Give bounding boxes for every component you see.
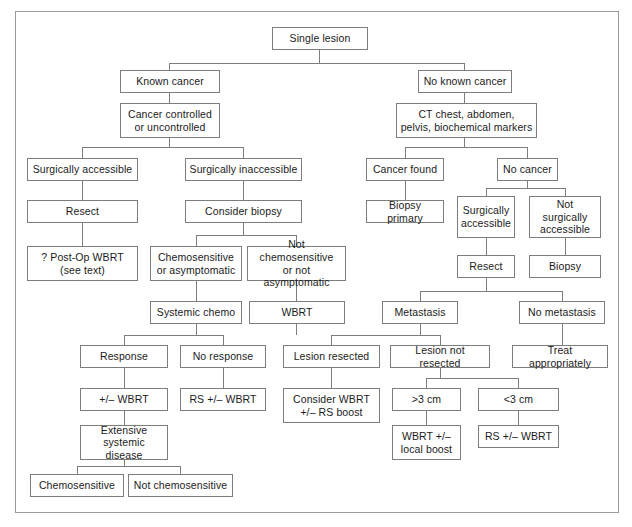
node-label: Cancer found [373, 163, 437, 176]
connector [296, 324, 297, 335]
node-surgically-accessible-right[interactable]: Surgicallyaccessible [457, 196, 515, 238]
node-label: WBRT +/–local boost [401, 430, 452, 455]
node-no-known-cancer[interactable]: No known cancer [418, 70, 512, 93]
connector [169, 63, 465, 64]
node-chemosensitive-or-asymptomatic[interactable]: Chemosensitiveor asymptomatic [150, 246, 242, 281]
node-label: Consider WBRT+/– RS boost [293, 393, 370, 418]
connector [486, 188, 565, 189]
node-label: Lesion not resected [394, 344, 486, 369]
node-consider-biopsy[interactable]: Consider biopsy [185, 200, 302, 223]
connector [243, 181, 244, 200]
node-label: Known cancer [136, 75, 204, 88]
node-resect-left[interactable]: Resect [27, 200, 138, 223]
node-known-cancer[interactable]: Known cancer [120, 70, 220, 93]
connector [405, 147, 527, 148]
node-not-chemosensitive-or-not-asymptomatic[interactable]: Not chemosensitiveor not asymptomatic [247, 246, 346, 281]
node-lesion-resected[interactable]: Lesion resected [283, 345, 380, 368]
connector [331, 335, 440, 336]
connector [527, 147, 528, 158]
connector [420, 324, 421, 335]
connector [464, 92, 465, 103]
connector [124, 335, 223, 336]
node-cancer-found[interactable]: Cancer found [366, 158, 444, 181]
connector [77, 466, 180, 467]
node-not-surgically-accessible[interactable]: Not surgicallyaccessible [529, 196, 601, 238]
node-label: No cancer [503, 163, 552, 176]
connector [124, 368, 125, 388]
node-label: Surgically inaccessible [190, 163, 298, 176]
node-no-metastasis[interactable]: No metastasis [519, 301, 605, 324]
node-wbrt-local-boost[interactable]: WBRT +/–local boost [392, 425, 461, 460]
node-label: Not surgicallyaccessible [533, 198, 597, 236]
connector [405, 181, 406, 200]
node-metastasis[interactable]: Metastasis [382, 301, 458, 324]
node-label: Resect [469, 260, 502, 273]
connector [562, 291, 563, 301]
node-single-lesion[interactable]: Single lesion [272, 27, 368, 50]
node-resect-right[interactable]: Resect [457, 255, 515, 278]
node-rs-plus-minus-wbrt-right[interactable]: RS +/– WBRT [478, 425, 559, 448]
node-plus-minus-wbrt[interactable]: +/– WBRT [80, 388, 168, 411]
node-cancer-controlled-or-uncontrolled[interactable]: Cancer controlledor uncontrolled [120, 103, 220, 138]
connector [180, 466, 181, 474]
node-treat-appropriately[interactable]: Treat appropriately [512, 345, 608, 368]
node-not-chemosensitive[interactable]: Not chemosensitive [128, 474, 233, 497]
connector [486, 188, 487, 196]
node-label: RS +/– WBRT [189, 393, 256, 406]
connector [223, 368, 224, 388]
node-surgically-inaccessible[interactable]: Surgically inaccessible [185, 158, 302, 181]
node-label: No response [193, 350, 254, 363]
connector [562, 324, 563, 345]
node-no-response[interactable]: No response [180, 345, 266, 368]
connector [464, 63, 465, 70]
connector [169, 92, 170, 103]
node-label: CT chest, abdomen,pelvis, biochemical ma… [401, 108, 533, 133]
node-label: Treat appropriately [516, 344, 604, 369]
node-lesion-not-resected[interactable]: Lesion not resected [390, 345, 490, 368]
node-no-cancer[interactable]: No cancer [497, 158, 558, 181]
connector [464, 137, 465, 147]
connector [196, 280, 197, 301]
node-consider-wbrt-rs-boost[interactable]: Consider WBRT+/– RS boost [283, 388, 380, 423]
node-response[interactable]: Response [80, 345, 168, 368]
node-label: Extensivesystemic disease [84, 424, 164, 462]
node-label: Chemosensitiveor asymptomatic [157, 251, 236, 276]
node-label: Not chemosensitiveor not asymptomatic [251, 238, 342, 288]
node-label: Surgicallyaccessible [461, 204, 511, 229]
node-surgically-accessible-left[interactable]: Surgically accessible [27, 158, 138, 181]
connector [331, 368, 332, 388]
node-label: No known cancer [424, 75, 507, 88]
connector [426, 378, 518, 379]
connector [486, 278, 487, 291]
connector [196, 235, 296, 236]
node-label: Chemosensitive [39, 479, 115, 492]
node-post-op-wbrt[interactable]: ? Post-Op WBRT(see text) [27, 246, 138, 281]
connector [124, 335, 125, 345]
node-label: Biopsy [549, 260, 581, 273]
connector [486, 238, 487, 255]
node-label: +/– WBRT [99, 393, 148, 406]
node-label: Metastasis [394, 306, 445, 319]
node-label: WBRT [281, 306, 312, 319]
node-rs-plus-minus-wbrt-left[interactable]: RS +/– WBRT [180, 388, 266, 411]
node-extensive-systemic-disease[interactable]: Extensivesystemic disease [80, 425, 168, 460]
node-wbrt[interactable]: WBRT [249, 301, 345, 324]
connector [223, 335, 224, 345]
connector [77, 466, 78, 474]
connector [440, 368, 441, 378]
node-label: ? Post-Op WBRT(see text) [41, 251, 123, 276]
node-label: Surgically accessible [33, 163, 133, 176]
node-label: Response [100, 350, 148, 363]
node-biopsy-right[interactable]: Biopsy [529, 255, 601, 278]
connector [518, 378, 519, 388]
node-less-than-3cm[interactable]: <3 cm [478, 388, 559, 411]
connector [82, 147, 83, 158]
node-chemosensitive[interactable]: Chemosensitive [30, 474, 124, 497]
node-systemic-chemo[interactable]: Systemic chemo [150, 301, 242, 324]
node-label: No metastasis [528, 306, 596, 319]
connector [169, 137, 170, 147]
node-greater-than-3cm[interactable]: >3 cm [392, 388, 461, 411]
connector [82, 223, 83, 246]
node-biopsy-primary[interactable]: Biopsy primary [366, 200, 444, 223]
node-ct-workup[interactable]: CT chest, abdomen,pelvis, biochemical ma… [396, 103, 537, 138]
